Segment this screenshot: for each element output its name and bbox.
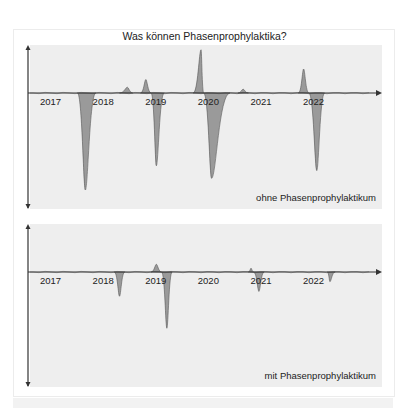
x-tick-label: 2019 (145, 96, 166, 107)
x-tick-label: 2020 (198, 96, 219, 107)
chart-title: Was können Phasenprophylaktika? (0, 30, 409, 42)
x-tick-label: 2020 (198, 275, 219, 286)
mood-episode-hypomania (298, 69, 309, 93)
mood-episode-mild-elevation (120, 87, 133, 93)
x-tick-label: 2018 (93, 275, 114, 286)
mood-episode-mild-depression (114, 272, 125, 296)
panel-without-prophylaxis: 201720182019202020212022ohne Phasenproph… (30, 45, 382, 209)
panel-label: ohne Phasenprophylaktikum (256, 192, 376, 203)
mood-episode-mania (193, 50, 204, 93)
mood-episode-mild-depression (327, 272, 335, 282)
mood-chart-with-prophylaxis: 201720182019202020212022mit Phasenprophy… (30, 224, 382, 387)
x-tick-label: 2017 (40, 275, 61, 286)
mood-chart-without-prophylaxis: 201720182019202020212022ohne Phasenproph… (30, 45, 382, 209)
x-tick-label: 2022 (303, 275, 324, 286)
next-section-edge (13, 398, 393, 408)
mood-episode-elevation (141, 80, 152, 93)
mood-episode-depression (77, 93, 95, 190)
x-tick-label: 2017 (40, 96, 61, 107)
x-tick-label: 2018 (93, 96, 114, 107)
panel-with-prophylaxis: 201720182019202020212022mit Phasenprophy… (30, 224, 382, 387)
x-tick-label: 2022 (303, 96, 324, 107)
x-tick-label: 2021 (250, 275, 271, 286)
panel-label: mit Phasenprophylaktikum (265, 370, 376, 381)
x-tick-label: 2019 (145, 275, 166, 286)
mood-episode-mild-elevation (151, 264, 162, 272)
x-tick-label: 2021 (250, 96, 271, 107)
